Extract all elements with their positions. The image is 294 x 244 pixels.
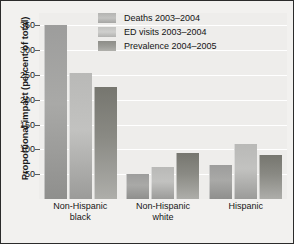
legend-label: ED visits 2003–2004 <box>124 27 207 37</box>
x-axis-category-label-line: Non-Hispanic <box>39 201 122 212</box>
y-axis-tick-label: 300 <box>20 45 35 55</box>
x-axis-category-label-line: Hispanic <box>204 201 287 212</box>
legend-color-swatch <box>98 27 116 37</box>
x-axis-category-labels: Non-HispanicblackNon-HispanicwhiteHispan… <box>39 201 287 241</box>
bar <box>44 25 67 199</box>
bar <box>94 87 117 199</box>
legend-color-swatch <box>98 13 116 23</box>
x-axis-category-label-line: Non-Hispanic <box>122 201 205 212</box>
y-axis-tick-label: 250 <box>20 70 35 80</box>
legend-item: Prevalence 2004–2005 <box>98 40 217 51</box>
bar <box>176 153 199 199</box>
x-axis-category-label: Non-Hispanicwhite <box>122 201 205 223</box>
y-axis-tick-label: 100 <box>20 144 35 154</box>
x-axis-category-label-line: white <box>122 212 205 223</box>
chart-figure: Proportional impact (percent of total) 5… <box>0 0 294 244</box>
y-axis-tick-label: 350 <box>20 20 35 30</box>
x-axis-category-label: Non-Hispanicblack <box>39 201 122 223</box>
chart-legend: Deaths 2003–2004ED visits 2003–2004Preva… <box>98 12 217 51</box>
legend-item: Deaths 2003–2004 <box>98 12 217 23</box>
bar <box>209 165 232 199</box>
y-axis-tick-label: 200 <box>20 95 35 105</box>
bar <box>259 155 282 199</box>
y-axis-tick-label: 150 <box>20 120 35 130</box>
y-axis-tick-label: 50 <box>25 169 35 179</box>
legend-label: Prevalence 2004–2005 <box>124 41 217 51</box>
bar <box>69 73 92 199</box>
x-axis-category-label: Hispanic <box>204 201 287 212</box>
legend-label: Deaths 2003–2004 <box>124 13 200 23</box>
bar <box>234 144 257 199</box>
bar <box>151 167 174 199</box>
legend-item: ED visits 2003–2004 <box>98 26 217 37</box>
bar-group <box>204 13 287 199</box>
bar <box>126 174 149 199</box>
x-axis-category-label-line: black <box>39 212 122 223</box>
legend-color-swatch <box>98 41 116 51</box>
